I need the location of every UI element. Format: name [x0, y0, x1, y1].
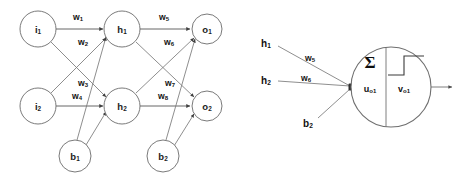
node-i1[interactable]: i1	[20, 11, 56, 47]
node-b1[interactable]: b1	[59, 140, 91, 172]
node-o1[interactable]: o1	[192, 14, 222, 44]
weight-label-w3: w3	[77, 78, 89, 88]
figure-canvas: i1 i2 h1 h2 o1 o2	[0, 0, 461, 178]
neuron-input-label-h1: h1	[261, 38, 271, 49]
neuron-input-line-h2	[278, 81, 350, 86]
neuron-input-label-b2: b2	[303, 118, 313, 129]
weight-label-w2: w2	[77, 37, 89, 47]
weight-label-w5: w5	[158, 12, 170, 22]
sigma-icon: Σ	[364, 53, 375, 72]
neuron-input-line-h1	[278, 46, 350, 86]
neuron-weight-label-w5: w5	[304, 53, 316, 63]
node-i2[interactable]: i2	[20, 88, 56, 124]
weight-label-w8: w8	[157, 91, 169, 101]
weight-label-w1: w1	[72, 12, 84, 22]
neuron-detail-panel: h1 h2 b2 w5 w6 Σ uo1 vo1	[261, 38, 452, 129]
edge-b1-h2	[86, 112, 106, 145]
node-o2[interactable]: o2	[192, 91, 222, 121]
node-h2[interactable]: h2	[104, 88, 140, 124]
weight-label-w6: w6	[163, 37, 175, 47]
edge-h1-o2	[136, 42, 194, 97]
neuron-input-label-h2: h2	[261, 75, 271, 86]
weight-label-w7: w7	[164, 78, 176, 88]
edge-b2-o2	[174, 114, 194, 146]
node-h1[interactable]: h1	[104, 11, 140, 47]
node-b2[interactable]: b2	[147, 140, 179, 172]
network-nodes: i1 i2 h1 h2 o1 o2	[20, 11, 222, 172]
edge-i1-h2	[51, 42, 106, 97]
neural-network-figure: i1 i2 h1 h2 o1 o2	[0, 0, 461, 178]
weight-label-w4: w4	[71, 91, 83, 101]
neuron-input-line-b2	[318, 89, 350, 118]
neuron-weight-label-w6: w6	[300, 73, 312, 83]
edge-b2-o1	[166, 39, 195, 140]
